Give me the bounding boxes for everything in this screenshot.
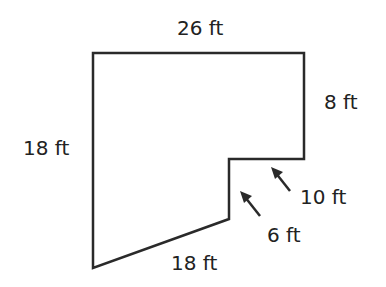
label-inner-10ft: 10 ft [300,187,346,207]
label-top-26ft: 26 ft [177,18,223,38]
label-inner-6ft: 6 ft [267,225,301,245]
label-left-18ft: 18 ft [23,138,69,158]
label-bottom-18ft: 18 ft [171,253,217,273]
arrow-10ft [271,167,290,191]
arrow-6ft [240,191,260,216]
label-right-8ft: 8 ft [324,92,358,112]
